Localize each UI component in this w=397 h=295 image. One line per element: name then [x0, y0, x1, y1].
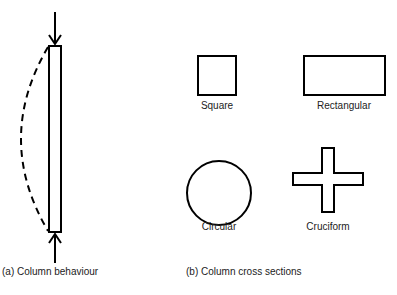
rectangular-section [304, 56, 385, 95]
rectangular-label: Rectangular [317, 100, 371, 111]
circular-label: Circular [202, 221, 236, 232]
cruciform-label: Cruciform [306, 221, 349, 232]
panel-a-caption: (a) Column behaviour [2, 266, 98, 277]
circular-section [187, 161, 251, 225]
cruciform-section [293, 148, 363, 212]
buckled-shape-dashed [21, 47, 48, 231]
top-load-arrow-icon [49, 12, 61, 44]
bottom-load-arrow-icon [49, 234, 61, 263]
square-label: Square [201, 100, 233, 111]
square-section [198, 56, 236, 95]
column-member [49, 46, 61, 232]
diagram-canvas [0, 0, 397, 295]
panel-b-caption: (b) Column cross sections [186, 266, 302, 277]
